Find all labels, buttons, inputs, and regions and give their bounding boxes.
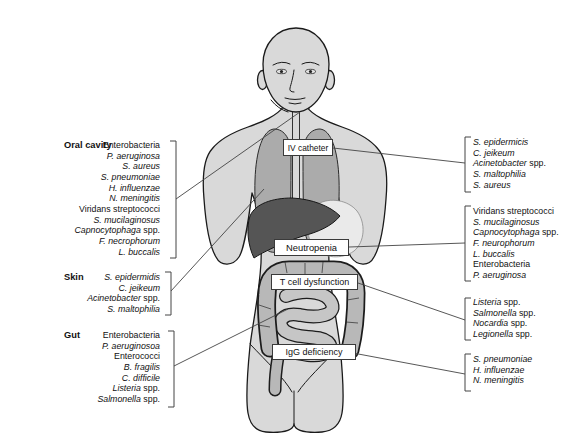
infection-sites-diagram: Oral cavity Skin Gut EnterobacteriaP. ae… xyxy=(0,0,581,440)
species-item: H. influenzae xyxy=(0,183,160,194)
list-neutropenia: Viridans streptococciS. mucilaginosusCap… xyxy=(473,206,559,281)
species-item: S. epidermicis xyxy=(473,137,546,148)
species-item: Viridans streptococci xyxy=(0,204,160,215)
species-item: C. difficile xyxy=(0,373,160,384)
species-item: Viridans streptococci xyxy=(473,206,559,217)
species-item: F. neurophorum xyxy=(473,238,559,249)
species-item: N. meningitis xyxy=(0,193,160,204)
bracket-oral-cavity xyxy=(170,141,176,258)
species-item: S. mucilaginosus xyxy=(473,217,559,228)
species-item: L. buccalis xyxy=(0,247,160,258)
list-igg-deficiency: S. pneumoniaeH. influenzaeN. meningitis xyxy=(473,354,532,386)
species-item: Salmonella spp. xyxy=(0,394,160,405)
species-item: S. maltophilia xyxy=(473,169,546,180)
species-item: Salmonella spp. xyxy=(473,308,536,319)
bracket-gut xyxy=(168,331,174,407)
species-item: S. pneumoniae xyxy=(0,172,160,183)
bracket-skin xyxy=(165,272,171,315)
species-item: N. meningitis xyxy=(473,375,532,386)
species-item: S. aureus xyxy=(473,180,546,191)
species-item: Capnocytophaga spp. xyxy=(473,227,559,238)
list-skin: S. epidermidisC. jeikeumAcinetobacter sp… xyxy=(0,272,160,315)
species-item: Enterobacteria xyxy=(473,259,559,270)
bracket-neutropenia xyxy=(465,206,471,281)
line-tcell-to-list xyxy=(358,283,465,320)
species-item: S. aureus xyxy=(0,161,160,172)
species-item: Listeria spp. xyxy=(0,383,160,394)
species-item: L. buccalis xyxy=(473,249,559,260)
species-item: H. influenzae xyxy=(473,365,532,376)
species-item: Acinetobacter spp. xyxy=(473,158,546,169)
species-item: C. jeikeum xyxy=(0,283,160,294)
bracket-t-cell xyxy=(465,298,471,340)
bracket-igg xyxy=(465,354,471,391)
species-item: S. pneumoniae xyxy=(473,354,532,365)
species-item: Legionella spp. xyxy=(473,329,536,340)
list-iv-catheter: S. epidermicisC. jeikeumAcinetobacter sp… xyxy=(473,137,546,190)
species-item: F. necrophorum xyxy=(0,236,160,247)
species-item: P. aeruginosoa xyxy=(0,341,160,352)
species-item: Capnocytophaga spp. xyxy=(0,225,160,236)
species-item: P. aeruginosa xyxy=(473,270,559,281)
species-item: Enterococci xyxy=(0,351,160,362)
label-t-cell-dysfunction: T cell dysfunction xyxy=(271,274,358,290)
species-item: P. aeruginosa xyxy=(0,151,160,162)
species-item: S. maltophilia xyxy=(0,304,160,315)
species-item: Nocardia spp. xyxy=(473,318,536,329)
label-igg-deficiency: IgG deficiency xyxy=(272,344,356,360)
species-item: Enterobacteria xyxy=(0,330,160,341)
species-item: Enterobacteria xyxy=(0,140,160,151)
species-item: S. mucilaginosus xyxy=(0,215,160,226)
bracket-iv-catheter xyxy=(465,137,471,192)
list-gut: EnterobacteriaP. aeruginosoaEnterococciB… xyxy=(0,330,160,405)
species-item: C. jeikeum xyxy=(473,148,546,159)
list-oral-cavity: EnterobacteriaP. aeruginosaS. aureusS. p… xyxy=(0,140,160,257)
species-item: B. fragilis xyxy=(0,362,160,373)
line-igg-to-list xyxy=(353,353,465,374)
label-iv-catheter: IV catheter xyxy=(283,139,333,156)
species-item: Acinetobacter spp. xyxy=(0,293,160,304)
species-item: S. epidermidis xyxy=(0,272,160,283)
rectum xyxy=(275,357,278,390)
label-neutropenia: Neutropenia xyxy=(274,239,349,256)
species-item: Listeria spp. xyxy=(473,297,536,308)
list-t-cell-dysfunction: Listeria spp.Salmonella spp.Nocardia spp… xyxy=(473,297,536,340)
